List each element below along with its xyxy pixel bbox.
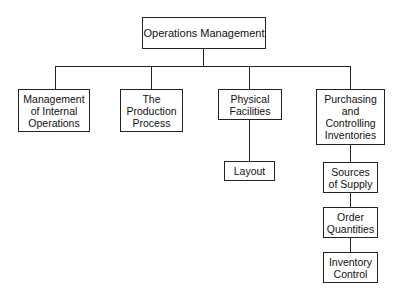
node-sources-of-supply: Sources of Supply (323, 162, 378, 193)
connector-root-down (203, 48, 204, 66)
connector-order-inventory (350, 238, 351, 252)
node-management-internal-operations: Management of Internal Operations (18, 89, 90, 132)
node-layout: Layout (224, 161, 275, 181)
connector-to-facilities (249, 66, 250, 89)
connector-to-purchasing (350, 66, 351, 89)
connector-facilities-layout (249, 119, 250, 161)
node-order-quantities: Order Quantities (323, 207, 378, 238)
connector-level1-bus (55, 66, 351, 67)
node-purchasing-controlling-inventories: Purchasing and Controlling Inventories (316, 89, 385, 145)
node-physical-facilities: Physical Facilities (218, 89, 282, 120)
connector-to-production (151, 66, 152, 89)
node-production-process: The Production Process (120, 89, 183, 132)
connector-to-internal-ops (55, 66, 56, 89)
connector-purchasing-sources (350, 144, 351, 162)
connector-sources-order (350, 193, 351, 207)
node-inventory-control: Inventory Control (323, 252, 378, 283)
node-operations-management: Operations Management (142, 17, 266, 49)
